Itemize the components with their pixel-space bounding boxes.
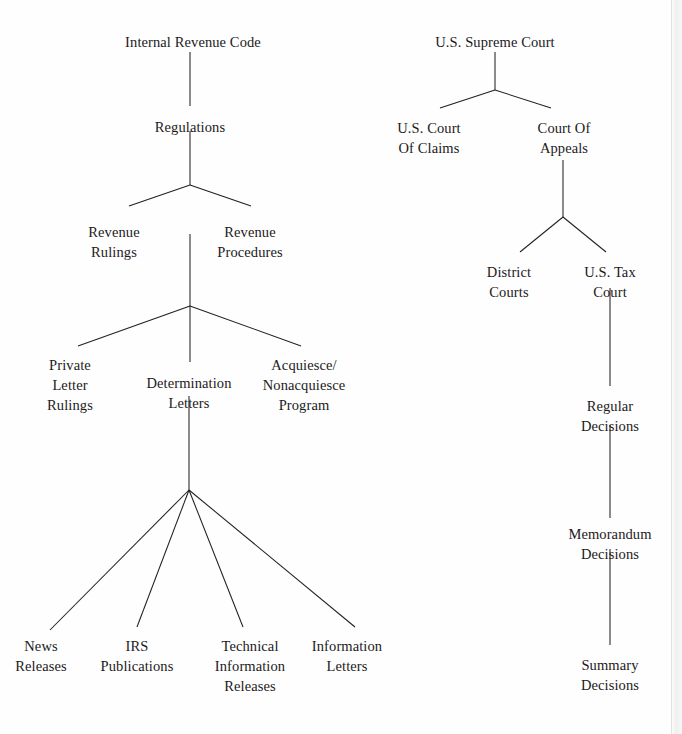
node-label-line: Regular <box>581 396 639 416</box>
node-us-supreme-court: U.S. Supreme Court <box>435 32 554 52</box>
node-label-line: Letters <box>146 393 231 413</box>
node-label-line: Determination <box>146 373 231 393</box>
node-us-tax-court: U.S. TaxCourt <box>584 262 635 302</box>
node-determination-letters: DeterminationLetters <box>146 373 231 413</box>
node-label-line: Decisions <box>568 544 651 564</box>
diagram-canvas: Internal Revenue CodeRegulationsRevenueR… <box>0 0 682 734</box>
edge-junction-procedures-to-private-letter-rulings <box>78 306 190 346</box>
node-label-line: Revenue <box>88 222 139 242</box>
node-label-line: Information <box>312 636 382 656</box>
node-court-of-appeals: Court OfAppeals <box>538 118 591 158</box>
node-technical-information-releases: TechnicalInformationReleases <box>215 636 285 696</box>
node-label-line: Of Claims <box>397 138 460 158</box>
edge-junction-regulations-to-revenue-rulings <box>129 185 190 206</box>
node-label-line: Internal Revenue Code <box>125 32 261 52</box>
node-regulations: Regulations <box>155 117 225 137</box>
node-label-line: Letter <box>47 375 93 395</box>
node-label-line: Rulings <box>47 395 93 415</box>
edge-junction-supreme-to-us-court-of-claims <box>440 90 495 108</box>
node-label-line: District <box>487 262 531 282</box>
node-label-line: Court Of <box>538 118 591 138</box>
node-label-line: Information <box>215 656 285 676</box>
node-label-line: Releases <box>15 656 67 676</box>
node-us-court-of-claims: U.S. CourtOf Claims <box>397 118 460 158</box>
edge-junction-regulations-to-revenue-procedures <box>190 185 251 206</box>
edge-junction-supreme-to-court-of-appeals <box>495 90 551 108</box>
node-label-line: Summary <box>581 655 639 675</box>
edges-statutory-administrative-authority <box>50 52 355 630</box>
node-label-line: Decisions <box>581 675 639 695</box>
node-memorandum-decisions: MemorandumDecisions <box>568 524 651 564</box>
node-district-courts: DistrictCourts <box>487 262 531 302</box>
node-label-line: Memorandum <box>568 524 651 544</box>
node-label-line: Courts <box>487 282 531 302</box>
node-internal-revenue-code: Internal Revenue Code <box>125 32 261 52</box>
node-label-line: U.S. Court <box>397 118 460 138</box>
node-label-line: Acquiesce/ <box>263 355 346 375</box>
node-label-line: IRS <box>101 636 174 656</box>
edge-junction-letters-to-news-releases <box>50 490 189 630</box>
edge-junction-letters-to-information-letters <box>189 490 355 627</box>
node-label-line: Technical <box>215 636 285 656</box>
node-label-line: Private <box>47 355 93 375</box>
node-label-line: Regulations <box>155 117 225 137</box>
node-label-line: News <box>15 636 67 656</box>
node-label-line: Revenue <box>217 222 282 242</box>
node-label-line: Appeals <box>538 138 591 158</box>
node-label-line: Court <box>584 282 635 302</box>
node-private-letter-rulings: PrivateLetterRulings <box>47 355 93 415</box>
edge-junction-procedures-to-acquiesce-nonacquiesce-program <box>190 306 301 346</box>
node-label-line: U.S. Supreme Court <box>435 32 554 52</box>
node-label-line: Nonacquiesce <box>263 375 346 395</box>
node-label-line: Publications <box>101 656 174 676</box>
node-irs-publications: IRSPublications <box>101 636 174 676</box>
node-news-releases: NewsReleases <box>15 636 67 676</box>
edge-junction-letters-to-irs-publications <box>137 490 189 627</box>
node-acquiesce-nonacquiesce-program: Acquiesce/NonacquiesceProgram <box>263 355 346 415</box>
node-label-line: Letters <box>312 656 382 676</box>
node-summary-decisions: SummaryDecisions <box>581 655 639 695</box>
node-label-line: U.S. Tax <box>584 262 635 282</box>
node-regular-decisions: RegularDecisions <box>581 396 639 436</box>
node-label-line: Procedures <box>217 242 282 262</box>
node-label-line: Releases <box>215 676 285 696</box>
edge-junction-appeals-to-district-courts <box>520 217 563 252</box>
node-label-line: Rulings <box>88 242 139 262</box>
node-label-line: Program <box>263 395 346 415</box>
edge-junction-letters-to-technical-information-releases <box>189 490 243 627</box>
edge-junction-appeals-to-us-tax-court <box>563 217 606 252</box>
node-revenue-procedures: RevenueProcedures <box>217 222 282 262</box>
node-information-letters: InformationLetters <box>312 636 382 676</box>
node-label-line: Decisions <box>581 416 639 436</box>
node-revenue-rulings: RevenueRulings <box>88 222 139 262</box>
